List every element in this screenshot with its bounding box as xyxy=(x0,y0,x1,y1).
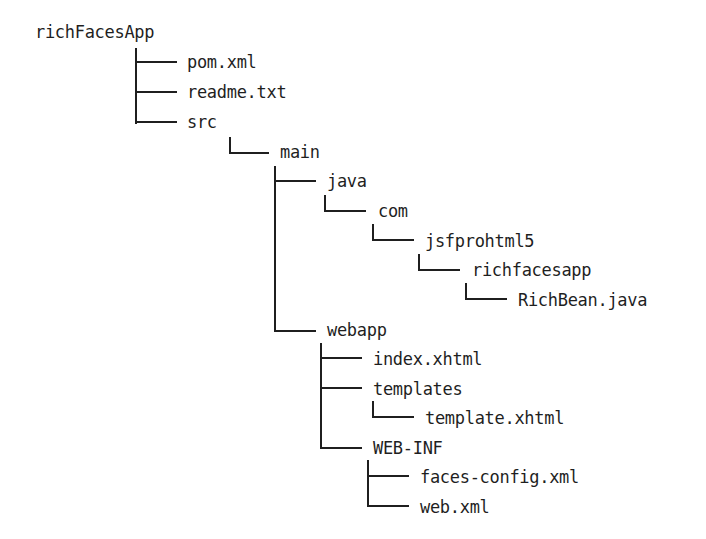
node-templates: templates xyxy=(373,379,462,399)
node-main: main xyxy=(280,142,320,162)
node-template-xhtml: template.xhtml xyxy=(425,408,564,428)
connector-pom xyxy=(135,61,177,63)
connector-readme xyxy=(135,91,177,93)
connector-web-xml xyxy=(367,505,409,507)
connector-main xyxy=(229,152,269,154)
connector-java xyxy=(274,180,316,182)
node-richbean-java: RichBean.java xyxy=(518,290,647,310)
node-readme-txt: readme.txt xyxy=(187,82,286,102)
connector-jsfprohtml5 xyxy=(372,239,414,241)
node-richfacesapp-package: richfacesapp xyxy=(472,260,591,280)
node-web-xml: web.xml xyxy=(420,497,490,517)
node-faces-config-xml: faces-config.xml xyxy=(420,467,579,487)
node-webapp: webapp xyxy=(327,320,387,340)
node-pom-xml: pom.xml xyxy=(187,52,257,72)
connector-web-inf xyxy=(320,447,362,449)
node-src: src xyxy=(187,112,217,132)
node-jsfprohtml5: jsfprohtml5 xyxy=(425,231,534,251)
node-com: com xyxy=(378,201,408,221)
connector-com xyxy=(324,210,366,212)
connector-web-inf-vertical xyxy=(367,460,369,507)
connector-faces-config xyxy=(367,475,409,477)
connector-template-xhtml xyxy=(372,416,414,418)
node-web-inf: WEB-INF xyxy=(373,438,443,458)
connector-templates xyxy=(320,387,362,389)
node-richfacesapp-root: richFacesApp xyxy=(35,22,154,42)
connector-root-vertical xyxy=(135,48,137,124)
node-java: java xyxy=(327,171,367,191)
directory-tree: richFacesApp pom.xml readme.txt src main… xyxy=(0,0,706,539)
connector-src xyxy=(135,121,177,123)
connector-main-vertical xyxy=(274,166,276,332)
connector-webapp xyxy=(274,330,316,332)
node-index-xhtml: index.xhtml xyxy=(373,349,482,369)
connector-index xyxy=(320,357,362,359)
connector-richbean xyxy=(465,298,507,300)
connector-richfacesapp xyxy=(418,269,460,271)
